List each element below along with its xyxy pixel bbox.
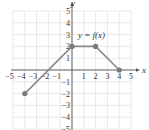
x-axis-arrow-icon (136, 68, 140, 72)
y-tick-label: 3 (66, 31, 70, 40)
x-tick-label: −3 (29, 72, 38, 81)
x-tick-label: −4 (17, 72, 26, 81)
y-tick-label: 1 (66, 54, 70, 63)
x-tick-label: −5 (5, 72, 14, 81)
function-annotation: y = f(x) (77, 30, 105, 40)
x-tick-label: 3 (105, 72, 109, 81)
y-tick-label: −4 (61, 113, 70, 122)
data-point-marker (22, 91, 27, 96)
function-graph: xy−5−4−3−2−112345−5−4−3−2−112345y = f(x) (0, 0, 149, 130)
data-point-marker (93, 44, 98, 49)
y-tick-label: −1 (61, 78, 70, 87)
x-tick-label: −1 (52, 72, 61, 81)
y-tick-label: −2 (61, 90, 70, 99)
y-tick-label: 4 (66, 19, 70, 28)
y-tick-label: 5 (66, 7, 70, 16)
data-point-marker (117, 67, 122, 72)
data-point-marker (69, 44, 74, 49)
x-axis-label: x (141, 65, 146, 75)
x-tick-label: 5 (129, 72, 133, 81)
x-tick-label: 2 (94, 72, 98, 81)
y-tick-label: −5 (61, 125, 70, 130)
y-tick-label: −3 (61, 101, 70, 110)
x-tick-label: 4 (117, 72, 121, 81)
x-tick-label: 1 (82, 72, 86, 81)
y-axis-label: y (70, 0, 75, 8)
